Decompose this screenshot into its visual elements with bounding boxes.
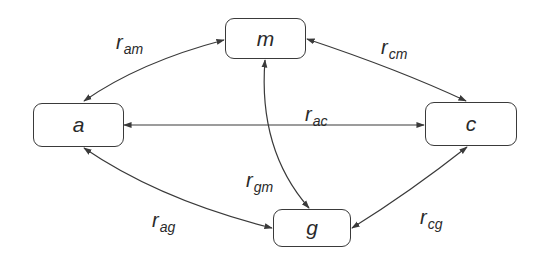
node-a-label: a bbox=[73, 113, 85, 137]
edge-a-g bbox=[84, 148, 272, 228]
node-a: a bbox=[33, 103, 124, 147]
edge-label-am: ram bbox=[116, 32, 143, 56]
edge-label-ag: rag bbox=[152, 210, 175, 234]
edge-a-m bbox=[84, 40, 224, 101]
edge-c-g bbox=[352, 147, 467, 228]
node-c-label: c bbox=[466, 112, 477, 136]
node-m: m bbox=[225, 18, 306, 59]
edge-label-gm: rgm bbox=[246, 170, 273, 194]
node-g: g bbox=[273, 209, 351, 247]
node-c: c bbox=[425, 102, 517, 146]
relationship-diagram: m a c g ram rcm rac rgm rag rcg bbox=[0, 0, 544, 261]
edge-label-cg: rcg bbox=[420, 207, 442, 231]
edge-label-cm: rcm bbox=[381, 37, 407, 61]
node-g-label: g bbox=[306, 216, 318, 240]
edge-label-ac: rac bbox=[305, 104, 327, 128]
node-m-label: m bbox=[257, 27, 275, 51]
